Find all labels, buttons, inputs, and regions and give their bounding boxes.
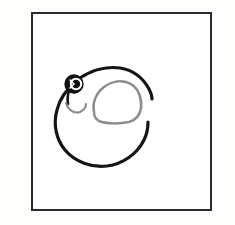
- drawing-canvas: snail-sketch snail Hand-drawn black ink …: [0, 0, 235, 225]
- body-top-arc-stroke: [80, 67, 152, 99]
- shell-outline-stroke: [93, 81, 141, 123]
- snail-sketch: [0, 0, 235, 225]
